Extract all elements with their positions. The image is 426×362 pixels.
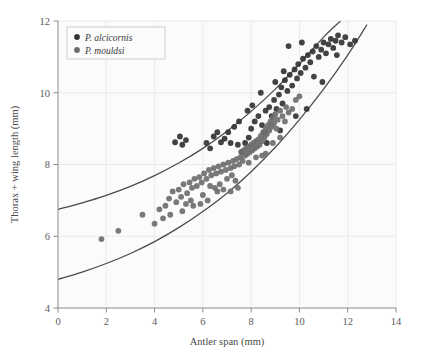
x-tick-label: 12 xyxy=(342,316,353,327)
y-tick-label: 6 xyxy=(45,231,50,242)
legend-marker xyxy=(74,47,80,53)
y-tick-label: 12 xyxy=(40,16,51,27)
x-tick-label: 14 xyxy=(391,316,402,327)
scatter-plot-figure: 024681012144681012Antler span (mm)Thorax… xyxy=(0,0,426,362)
x-tick-label: 2 xyxy=(104,316,109,327)
legend-label: P. mouldsi xyxy=(84,46,125,56)
chart-canvas: 024681012144681012Antler span (mm)Thorax… xyxy=(0,0,426,362)
x-tick-label: 8 xyxy=(249,316,254,327)
x-tick-label: 0 xyxy=(55,316,60,327)
y-axis-title: Thorax + wing length (mm) xyxy=(9,105,21,223)
x-tick-label: 10 xyxy=(294,316,305,327)
x-tick-label: 4 xyxy=(152,316,158,327)
legend-label: P. alcicornis xyxy=(84,33,133,43)
x-axis-title: Antler span (mm) xyxy=(190,336,265,348)
y-tick-label: 8 xyxy=(45,159,50,170)
y-tick-label: 10 xyxy=(40,88,51,99)
x-tick-label: 6 xyxy=(200,316,205,327)
chart-legend: P. alcicornisP. mouldsi xyxy=(67,27,165,59)
legend-marker xyxy=(74,34,80,40)
y-tick-label: 4 xyxy=(45,303,51,314)
